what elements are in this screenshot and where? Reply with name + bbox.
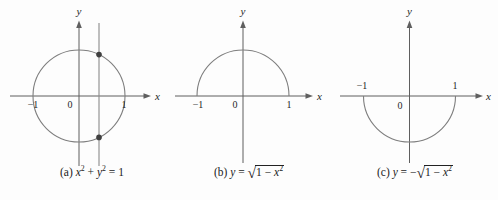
three-circle-graphs-figure: y x −1 0 1 (a) x2 + y2 = 1 y x −1 0 1 (b… (0, 0, 498, 200)
intersection-dot-top (96, 52, 102, 58)
x-axis-label: x (316, 90, 322, 102)
caption-c: (c) y = −√1 − x2 (332, 166, 498, 178)
panel-c-plot: y x −1 0 1 (332, 0, 498, 166)
panel-c: y x −1 0 1 (c) y = −√1 − x2 (332, 0, 498, 200)
caption-b: (b) y = √1 − x2 (166, 166, 332, 178)
y-axis-label: y (406, 5, 412, 17)
tick-label-neg-one: −1 (357, 80, 368, 91)
panel-b: y x −1 0 1 (b) y = √1 − x2 (166, 0, 332, 200)
caption-a-formula: x2 + y2 = 1 (76, 166, 124, 178)
x-axis-arrow-icon (476, 93, 484, 99)
caption-a-label: (a) (60, 166, 73, 178)
x-axis-label: x (485, 90, 491, 102)
y-axis-arrow-icon (240, 21, 246, 29)
y-axis-arrow-icon (407, 21, 413, 29)
x-axis-label: x (154, 90, 160, 102)
tick-label-one: 1 (453, 80, 458, 91)
tick-label-neg-one: −1 (193, 99, 204, 110)
tick-label-neg-one: −1 (28, 99, 39, 110)
caption-b-formula: y = √1 − x2 (230, 166, 284, 178)
panel-b-plot: y x −1 0 1 (166, 0, 332, 166)
caption-a: (a) x2 + y2 = 1 (9, 166, 175, 178)
tick-label-origin: 0 (398, 100, 403, 111)
tick-label-origin: 0 (68, 99, 73, 110)
intersection-dot-bottom (96, 135, 102, 141)
y-axis-label: y (240, 5, 246, 17)
x-axis-arrow-icon (144, 93, 152, 99)
tick-label-one: 1 (122, 99, 127, 110)
y-axis-arrow-icon (76, 21, 82, 29)
tick-label-origin: 0 (233, 99, 238, 110)
caption-b-label: (b) (214, 166, 227, 178)
y-axis-label: y (76, 5, 82, 17)
panel-a: y x −1 0 1 (a) x2 + y2 = 1 (0, 0, 166, 200)
caption-c-label: (c) (377, 166, 390, 178)
tick-label-one: 1 (287, 99, 292, 110)
x-axis-arrow-icon (306, 93, 314, 99)
panel-a-plot: y x −1 0 1 (0, 0, 166, 166)
caption-c-formula: y = −√1 − x2 (393, 166, 453, 178)
